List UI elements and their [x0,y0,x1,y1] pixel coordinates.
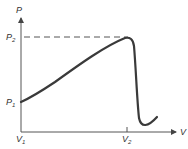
v1-label: V1 [16,134,25,145]
x-axis-label: V [180,127,187,137]
v2-label: V2 [122,134,132,145]
p1-label: P1 [6,97,15,108]
pv-curve [21,38,157,125]
y-axis-label: P [16,5,22,15]
pv-diagram: P V P2 P1 V1 V2 [0,0,188,149]
p2-label: P2 [6,32,16,43]
